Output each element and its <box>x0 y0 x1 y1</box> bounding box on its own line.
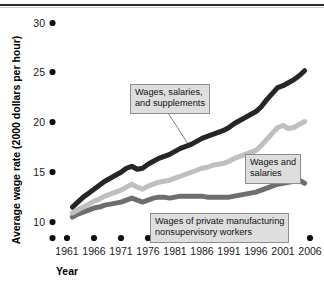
annotation-line-2: and supplements <box>135 98 205 109</box>
annotation-wages-salaries-supplements: Wages, salaries, and supplements <box>130 84 210 114</box>
y-tick-dot <box>49 219 55 225</box>
x-tick-dot <box>118 235 124 241</box>
x-tick-label: 2001 <box>271 245 295 257</box>
annotation-line-1: Wages of private manufacturing <box>155 216 284 227</box>
annotation-line-2: nonsupervisory workers <box>155 227 284 238</box>
annotation-line-2: salaries <box>250 168 296 179</box>
y-axis-ticks: 10 15 20 25 30 <box>33 17 55 228</box>
annotation-wages-and-salaries: Wages and salaries <box>245 154 301 184</box>
annotation-private-manufacturing-nonsupervisory: Wages of private manufacturing nonsuperv… <box>150 213 289 243</box>
y-tick-label: 20 <box>33 116 45 128</box>
x-tick-label: 1986 <box>190 245 214 257</box>
y-tick-dot <box>49 119 55 125</box>
x-tick-label: 1996 <box>244 245 268 257</box>
annotation-line-1: Wages and <box>250 157 296 168</box>
x-tick-label: 1966 <box>82 245 106 257</box>
x-tick-label: 1971 <box>109 245 133 257</box>
x-axis-title: Year <box>56 265 78 277</box>
y-tick-dot <box>49 69 55 75</box>
x-tick-dot-origin <box>49 235 55 241</box>
x-tick-dot <box>91 235 97 241</box>
y-axis-title: Average wage rate (2000 dollars per hour… <box>10 36 22 245</box>
y-tick-dot <box>49 169 55 175</box>
y-tick-label: 15 <box>33 166 45 178</box>
y-tick-label: 25 <box>33 66 45 78</box>
y-tick-label: 30 <box>33 17 45 29</box>
x-tick-dot <box>64 235 70 241</box>
x-axis-tick-labels: 1961 1966 1971 1976 1981 1986 1991 1996 … <box>55 245 322 257</box>
line-chart-plot: Average wage rate (2000 dollars per hour… <box>0 0 324 288</box>
chart-figure: Average wage rate (2000 dollars per hour… <box>0 0 324 288</box>
x-tick-dot <box>307 235 313 241</box>
y-tick-dot <box>49 20 55 26</box>
x-tick-label: 1961 <box>55 245 79 257</box>
series-line-manufacturing <box>72 180 304 217</box>
x-tick-label: 2006 <box>298 245 322 257</box>
x-tick-label: 1976 <box>136 245 160 257</box>
annotation-line-1: Wages, salaries, <box>135 87 205 98</box>
x-tick-label: 1981 <box>163 245 187 257</box>
leader-line-wages-salaries-supplements <box>168 113 190 147</box>
y-tick-label: 10 <box>33 216 45 228</box>
x-tick-label: 1991 <box>217 245 241 257</box>
